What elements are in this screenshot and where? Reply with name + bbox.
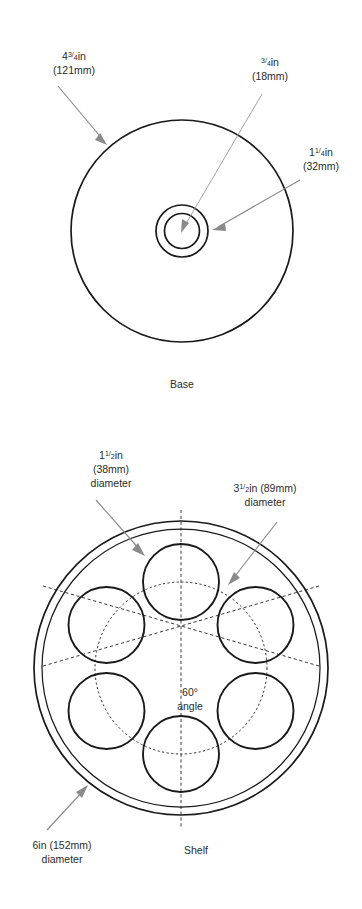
shelf-hole-lower-left (69, 673, 145, 749)
label-shelf-outer-diameter: 6in (152mm) diameter (33, 839, 92, 865)
svg-text:3/4in: 3/4in (261, 56, 279, 68)
label-shelf-bolt-circle: 31/2in (89mm) diameter (234, 482, 297, 508)
shelf-bolt-unit: in (249, 482, 257, 494)
svg-text:11/2in: 11/2in (99, 449, 123, 461)
shelf-bolt-metric: (89mm) (260, 482, 296, 494)
arrowhead-icon (228, 572, 240, 585)
base-collar-unit: in (325, 146, 333, 158)
base-collar-metric: (32mm) (303, 160, 339, 172)
svg-text:11/4in: 11/4in (309, 146, 333, 158)
label-base-center-hole: 3/4in (18mm) (252, 56, 288, 82)
caption-base: Base (170, 378, 194, 390)
shelf-hole-lower-right (218, 673, 294, 749)
shelf-angle-value: 60° (182, 686, 198, 698)
shelf-hole-metric: (38mm) (93, 463, 129, 475)
shelf-hole-upper-right (218, 587, 294, 663)
shelf-hole-unit: in (115, 449, 123, 461)
shelf-hole-note: diameter (91, 477, 132, 489)
label-base-collar-diameter: 11/4in (32mm) (303, 146, 339, 172)
base-hole-metric: (18mm) (252, 70, 288, 82)
shelf-angle-note: angle (177, 700, 203, 712)
caption-shelf: Shelf (184, 844, 208, 856)
svg-text:43/4in: 43/4in (62, 50, 86, 62)
arrowhead-icon (212, 223, 226, 231)
arrowhead-icon (132, 543, 145, 556)
leader-base-collar-diameter (212, 180, 300, 231)
base-hole-unit: in (271, 56, 279, 68)
label-base-outer-diameter: 43/4in (121mm) (53, 50, 95, 76)
arrowhead-icon (95, 133, 107, 145)
label-shelf-hole-diameter: 11/2in (38mm) diameter (91, 449, 132, 489)
base-outer-metric: (121mm) (53, 64, 95, 76)
shelf-outer-note: diameter (42, 853, 83, 865)
drawing-canvas: 43/4in (121mm) 3/4in (18mm) 11/4in (32mm… (0, 0, 362, 909)
figure-shelf: 11/2in (38mm) diameter 31/2in (89mm) dia… (33, 449, 328, 865)
svg-text:31/2in (89mm): 31/2in (89mm) (234, 482, 297, 494)
leader-shelf-outer-diameter (47, 785, 88, 830)
shelf-bolt-note: diameter (245, 496, 286, 508)
shelf-outer-unit: in (38, 839, 46, 851)
leader-base-outer-diameter (58, 86, 107, 145)
leader-base-center-hole (181, 94, 262, 233)
shelf-outer-metric: (152mm) (49, 839, 91, 851)
figure-base: 43/4in (121mm) 3/4in (18mm) 11/4in (32mm… (53, 50, 339, 390)
base-outer-unit: in (78, 50, 86, 62)
svg-text:6in (152mm): 6in (152mm) (33, 839, 92, 851)
technical-drawing-page: 43/4in (121mm) 3/4in (18mm) 11/4in (32mm… (0, 0, 362, 909)
